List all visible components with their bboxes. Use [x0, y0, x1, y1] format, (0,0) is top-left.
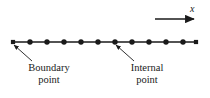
- grid-internal-point: [78, 39, 83, 44]
- internal-point-caption-line1: Internal: [108, 62, 186, 74]
- grid-internal-point: [112, 39, 117, 44]
- grid-internal-point: [61, 39, 66, 44]
- grid-boundary-point: [194, 40, 198, 44]
- one-dimensional-grid-figure: x Boundary point Internal point: [0, 0, 210, 98]
- internal-point-leader-line: [116, 45, 134, 61]
- x-axis-label: x: [190, 4, 194, 14]
- internal-point-caption: Internal point: [108, 62, 186, 86]
- grid-internal-point: [129, 39, 134, 44]
- grid-internal-point: [27, 39, 32, 44]
- grid-internal-point: [180, 39, 185, 44]
- annotation-leader-layer: [14, 45, 134, 61]
- internal-point-caption-line2: point: [108, 74, 186, 86]
- boundary-point-caption: Boundary point: [10, 62, 88, 86]
- boundary-point-caption-line1: Boundary: [10, 62, 88, 74]
- grid-boundary-point: [11, 40, 15, 44]
- grid-internal-point: [95, 39, 100, 44]
- grid-internal-point: [163, 39, 168, 44]
- boundary-point-caption-line2: point: [10, 74, 88, 86]
- grid-internal-point: [146, 39, 151, 44]
- boundary-point-leader-line: [14, 45, 32, 61]
- grid-internal-point: [44, 39, 49, 44]
